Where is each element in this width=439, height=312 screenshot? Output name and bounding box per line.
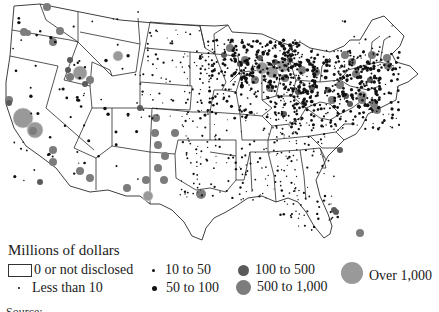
- legend-item-zero: 0 or not disclosed: [8, 262, 133, 278]
- legend-item-less-than-10: Less than 10: [18, 280, 103, 296]
- legend-label: 10 to 50: [165, 262, 211, 278]
- legend-label: 0 or not disclosed: [34, 262, 133, 278]
- legend-title: Millions of dollars: [8, 242, 120, 259]
- legend-item-10-50: 10 to 50: [152, 262, 211, 278]
- state-outlines: [6, 4, 418, 240]
- legend-item-over-1000: Over 1,000: [341, 262, 432, 284]
- dark-gray-circle-icon: [238, 265, 249, 276]
- gray-circle-icon: [236, 280, 251, 295]
- small-dot-icon: [152, 269, 155, 272]
- legend-label: 50 to 100: [166, 280, 219, 296]
- large-light-gray-circle-icon: [341, 262, 363, 284]
- legend-label: Over 1,000: [369, 268, 432, 284]
- legend-item-500-1000: 500 to 1,000: [236, 279, 327, 295]
- caption-partial: Source: ...: [6, 305, 55, 312]
- legend-label: 100 to 500: [255, 262, 315, 278]
- legend-item-100-500: 100 to 500: [238, 262, 315, 278]
- empty-box-icon: [8, 264, 32, 277]
- tiny-dot-icon: [18, 287, 20, 289]
- legend-label: Less than 10: [32, 280, 103, 296]
- legend-item-50-100: 50 to 100: [152, 280, 219, 296]
- medium-dot-icon: [152, 286, 157, 291]
- legend-label: 500 to 1,000: [257, 279, 327, 295]
